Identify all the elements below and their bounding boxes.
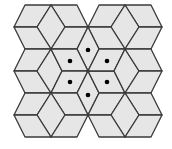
dot-marker [105,80,110,85]
dot-marker [86,93,91,98]
dot-marker [105,59,110,64]
dot-marker [68,80,73,85]
rhombus-tiling-diagram [0,0,172,149]
dot-marker [68,59,73,64]
center-vertex [86,69,89,72]
dot-marker [86,48,91,53]
